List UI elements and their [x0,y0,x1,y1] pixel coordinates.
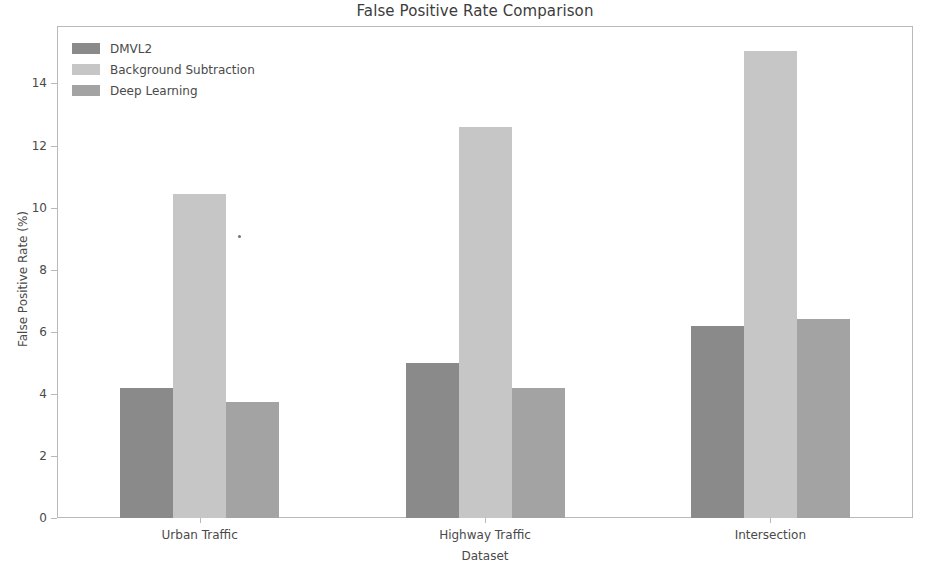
bar [173,194,226,518]
chart-page: False Positive Rate Comparison 024681012… [0,0,950,582]
bar [744,51,797,518]
y-tick-mark [51,394,57,395]
x-axis-label: Dataset [57,549,913,563]
legend-swatch-icon [72,64,100,75]
legend: DMVL2Background SubtractionDeep Learning [66,34,263,105]
legend-item[interactable]: Background Subtraction [72,59,255,80]
y-tick-mark [51,456,57,457]
legend-swatch-icon [72,85,100,96]
chart-title: False Positive Rate Comparison [0,2,950,20]
y-tick-mark [51,146,57,147]
legend-label: Background Subtraction [110,63,255,77]
y-tick-mark [51,332,57,333]
x-tick-mark [485,518,486,523]
x-tick-mark [200,518,201,523]
y-tick-mark [51,270,57,271]
bar [120,388,173,518]
y-tick-mark [51,83,57,84]
bar [512,388,565,518]
x-tick-label: Highway Traffic [395,528,575,542]
x-tick-mark [770,518,771,523]
legend-label: Deep Learning [110,84,198,98]
y-tick-label: 14 [9,76,47,90]
bar [797,319,850,518]
y-tick-mark [51,518,57,519]
bar [459,127,512,518]
legend-swatch-icon [72,43,100,54]
image-speck-artifact [238,235,241,238]
y-tick-mark [51,208,57,209]
y-tick-label: 12 [9,139,47,153]
x-tick-label: Urban Traffic [110,528,290,542]
legend-item[interactable]: DMVL2 [72,38,255,59]
bar [691,326,744,518]
y-tick-label: 2 [9,449,47,463]
bar [226,402,279,518]
bar [406,363,459,518]
y-axis-label: False Positive Rate (%) [16,159,30,399]
legend-label: DMVL2 [110,42,152,56]
y-tick-label: 0 [9,511,47,525]
x-tick-label: Intersection [680,528,860,542]
legend-item[interactable]: Deep Learning [72,80,255,101]
